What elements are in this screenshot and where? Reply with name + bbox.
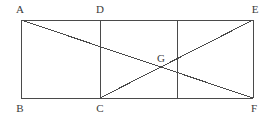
geometry-canvas — [0, 0, 273, 119]
vertex-label-c: C — [96, 103, 103, 114]
vertex-label-g: G — [157, 53, 165, 64]
vertex-label-d: D — [96, 4, 104, 15]
vertex-label-f: F — [251, 103, 257, 114]
diagonal-A-F — [21, 20, 253, 98]
vertex-label-e: E — [252, 4, 259, 15]
vertex-label-b: B — [16, 103, 23, 114]
vertex-label-a: A — [16, 4, 24, 15]
segment-group — [21, 20, 253, 98]
geometry-figure: ADEBCFG — [0, 0, 273, 119]
